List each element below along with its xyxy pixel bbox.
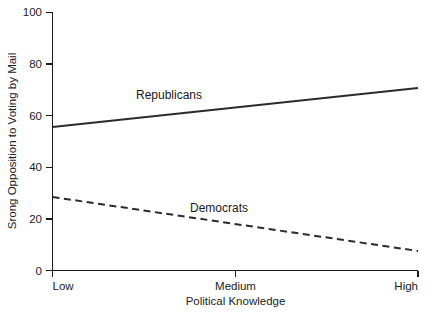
y-tick-label-100: 100 [23,6,42,18]
y-tick-label-20: 20 [29,213,42,225]
y-tick-label-0: 0 [36,265,42,277]
x-tick-label-medium: Medium [215,280,256,292]
x-tick-label-high: High [394,280,418,292]
series-label-democrats: Democrats [190,201,248,215]
x-tick-label-low: Low [53,280,75,292]
y-tick-label-40: 40 [29,161,42,173]
line-chart-canvas: 0 20 40 60 80 100 Low Medium High Politi… [0,0,433,317]
y-tick-label-80: 80 [29,58,42,70]
chart-figure: 0 20 40 60 80 100 Low Medium High Politi… [0,0,433,317]
series-label-republicans: Republicans [136,88,202,102]
x-axis-title: Political Knowledge [186,295,286,307]
y-tick-label-60: 60 [29,110,42,122]
series-line-republicans [53,88,419,127]
y-axis-title: Srong Opposition to Voting by Mail [6,53,18,229]
